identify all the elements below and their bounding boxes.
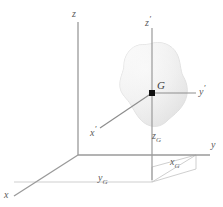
z-axis-label: z <box>72 9 76 19</box>
centroid-label-text: G <box>157 79 165 91</box>
z-g-sub-text: G <box>156 136 161 144</box>
primary-axes <box>14 22 210 196</box>
y-g-sub-text: G <box>102 178 107 186</box>
x-prime-axis-label: x′ <box>90 125 96 138</box>
x-prime-mark: ′ <box>94 124 96 134</box>
centroid-marker <box>149 90 155 96</box>
centroid-label: G <box>157 80 165 91</box>
y-prime-mark: ′ <box>203 83 205 93</box>
z-axis-label-text: z <box>72 8 76 19</box>
base-front-edge-right <box>152 169 196 182</box>
x-axis-line <box>14 155 78 196</box>
y-axis-label: y <box>211 140 215 150</box>
rigid-body <box>120 42 187 126</box>
z-prime-mark: ′ <box>149 14 151 24</box>
x-axis-label: x <box>4 190 8 200</box>
diagram-canvas <box>0 0 223 207</box>
x-axis-label-text: x <box>4 189 8 200</box>
figure-root: z y x z′ y′ x′ G zG xG yG <box>0 0 223 207</box>
y-g-offset-label: yG <box>98 173 108 186</box>
x-g-offset-label: xG <box>170 157 180 170</box>
y-prime-axis-label: y′ <box>199 84 205 97</box>
y-axis-label-text: y <box>211 139 215 150</box>
z-prime-axis-label: z′ <box>145 15 151 28</box>
rigid-body-shading <box>120 42 187 126</box>
z-g-offset-label: zG <box>152 131 161 144</box>
x-g-sub-text: G <box>174 162 179 170</box>
